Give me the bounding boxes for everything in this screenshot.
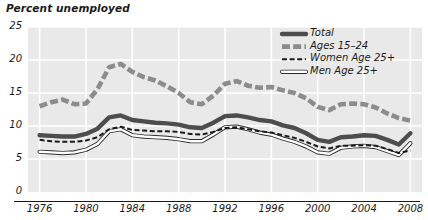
unemployment-line-chart	[0, 0, 428, 220]
legend-label: Women Age 25+	[310, 52, 395, 63]
x-axis-tick-label: 2004	[344, 203, 384, 214]
x-axis-tick-label: 1988	[159, 203, 199, 214]
x-axis-tick-label: 1992	[205, 203, 245, 214]
y-axis-tick-label: 25	[0, 20, 22, 31]
y-axis-tick-label: 0	[0, 185, 22, 196]
y-axis-tick-label: 5	[0, 152, 22, 163]
x-axis-tick-label: 1996	[251, 203, 291, 214]
y-axis-tick-label: 10	[0, 119, 22, 130]
legend-label: Ages 15–24	[310, 40, 368, 51]
chart-figure: Percent unemployed 051015202519761980198…	[0, 0, 428, 220]
x-axis-tick-label: 2000	[298, 203, 338, 214]
x-axis-tick-label: 1980	[66, 203, 106, 214]
legend-label: Total	[310, 27, 334, 38]
x-axis-tick-label: 1976	[20, 203, 60, 214]
legend-label: Men Age 25+	[310, 65, 378, 76]
y-axis-tick-label: 15	[0, 86, 22, 97]
y-axis-tick-label: 20	[0, 53, 22, 64]
x-axis-tick-label: 2008	[390, 203, 428, 214]
x-axis-tick-label: 1984	[112, 203, 152, 214]
